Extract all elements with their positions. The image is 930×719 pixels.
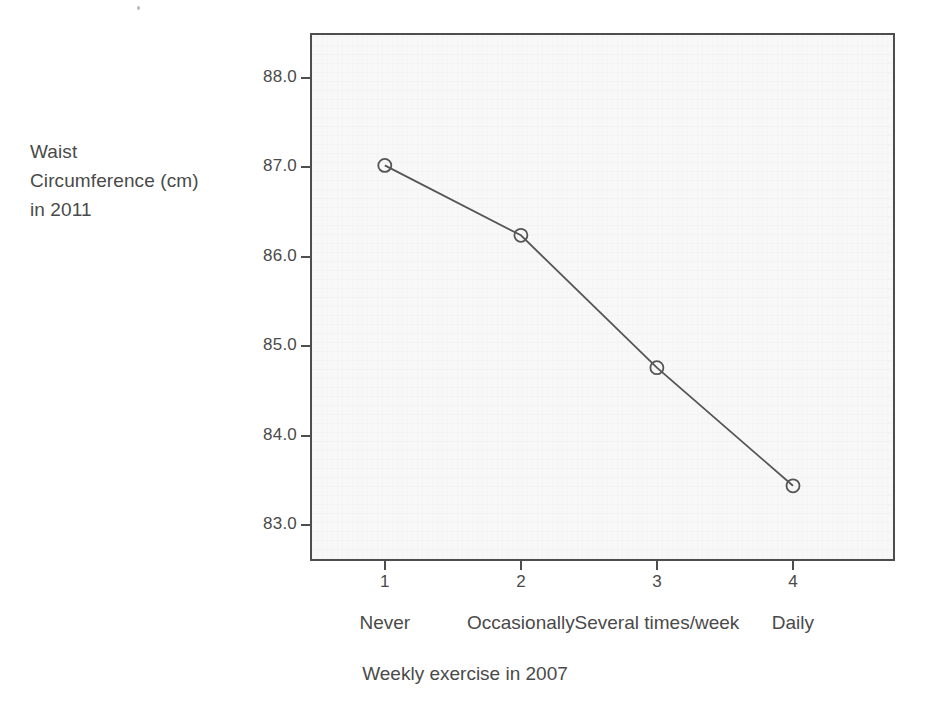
y-tick-mark (301, 166, 310, 168)
y-tick-label: 86.0 (239, 246, 297, 266)
x-tick-label: 2 (501, 572, 541, 592)
x-tick-mark (656, 561, 658, 570)
x-axis-title: Weekly exercise in 2007 (0, 663, 930, 685)
y-tick-label: 85.0 (239, 335, 297, 355)
category-label: Occasionally (467, 612, 575, 634)
y-axis-title-line-2: Circumference (cm) (30, 166, 245, 195)
paper-texture (312, 35, 893, 559)
plot-area (310, 33, 895, 561)
y-tick-mark (301, 77, 310, 79)
x-tick-mark (520, 561, 522, 570)
y-axis-title-line-3: in 2011 (30, 195, 245, 224)
x-tick-mark (792, 561, 794, 570)
category-label: Daily (772, 612, 814, 634)
x-tick-label: 3 (637, 572, 677, 592)
y-axis-title-line-1: Waist (30, 137, 245, 166)
scan-speck (137, 6, 140, 10)
y-tick-mark (301, 435, 310, 437)
y-tick-mark (301, 345, 310, 347)
y-tick-mark (301, 524, 310, 526)
chart-figure: Waist Circumference (cm) in 2011 88.087.… (0, 0, 930, 719)
category-label: Never (359, 612, 410, 634)
y-tick-label: 88.0 (239, 67, 297, 87)
x-tick-label: 1 (365, 572, 405, 592)
x-tick-label: 4 (773, 572, 813, 592)
y-tick-label: 83.0 (239, 514, 297, 534)
x-tick-mark (384, 561, 386, 570)
category-label: Several times/week (575, 612, 740, 634)
y-tick-label: 84.0 (239, 425, 297, 445)
y-axis-title: Waist Circumference (cm) in 2011 (30, 137, 245, 224)
y-tick-label: 87.0 (239, 156, 297, 176)
y-tick-mark (301, 256, 310, 258)
